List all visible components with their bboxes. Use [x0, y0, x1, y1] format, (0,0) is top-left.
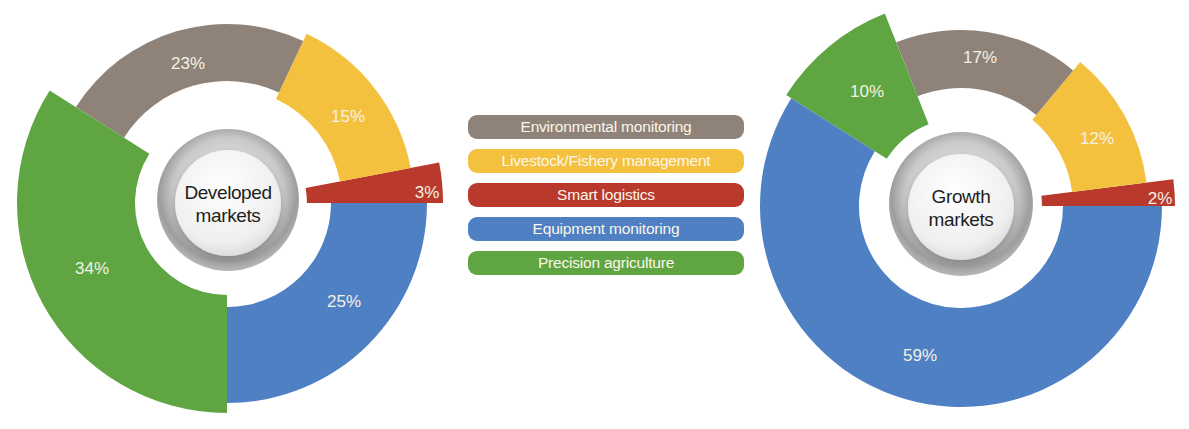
developed-markets-badge: Developed markets: [157, 129, 299, 271]
legend-item-precision-agriculture: Precision agriculture: [468, 251, 744, 275]
segment-label-equipment: 25%: [327, 292, 361, 311]
badge-label-line1: Growth: [932, 186, 991, 207]
segment-label-equipment: 59%: [903, 346, 937, 365]
segment-label-environmental: 17%: [963, 48, 997, 67]
legend-item-equipment-monitoring: Equipment monitoring: [468, 217, 744, 241]
legend-item-livestock-fishery-management: Livestock/Fishery management: [468, 149, 744, 173]
badge-label-line2: markets: [196, 205, 261, 226]
segment-label-precision: 34%: [75, 259, 109, 278]
segment-label-precision: 10%: [850, 82, 884, 101]
badge-disc: [908, 154, 1014, 260]
legend-item-environmental-monitoring: Environmental monitoring: [468, 115, 744, 139]
segment-environmental: [76, 24, 303, 138]
badge-disc: [175, 150, 281, 256]
growth-markets-badge: Growth markets: [889, 132, 1033, 276]
segment-label-environmental: 23%: [171, 54, 205, 73]
segment-label-logistics: 3%: [415, 183, 440, 202]
badge-label-line1: Developed: [184, 182, 271, 203]
segment-environmental: [896, 30, 1073, 115]
segment-label-logistics: 2%: [1148, 189, 1173, 208]
segment-label-livestock: 12%: [1080, 129, 1114, 148]
segment-label-livestock: 15%: [331, 107, 365, 126]
badge-label-line2: markets: [929, 209, 994, 230]
legend: Environmental monitoring Livestock/Fishe…: [468, 115, 744, 285]
legend-item-smart-logistics: Smart logistics: [468, 183, 744, 207]
